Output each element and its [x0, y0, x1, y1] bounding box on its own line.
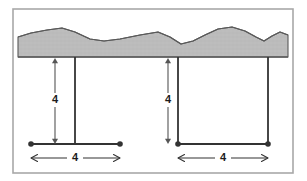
- left-endpoint-dot: [175, 141, 181, 147]
- left-endpoint-dot: [28, 141, 34, 147]
- right-width-label: 4: [220, 151, 227, 163]
- left-width-label: 4: [72, 151, 79, 163]
- structural-dimension-diagram: 4 4 4: [0, 0, 307, 181]
- diagram-canvas: 4 4 4: [0, 0, 307, 181]
- background: [0, 0, 307, 181]
- right-height-label: 4: [165, 93, 172, 105]
- left-height-label: 4: [52, 93, 59, 105]
- right-endpoint-dot: [117, 141, 123, 147]
- right-endpoint-dot: [265, 141, 271, 147]
